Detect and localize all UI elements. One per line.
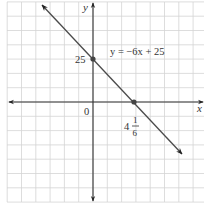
- x-intercept-denominator: 6: [133, 128, 138, 138]
- y-axis-label: y: [82, 1, 88, 13]
- equation-label: y = −6x + 25: [110, 46, 165, 57]
- x-axis-label: x: [196, 102, 202, 114]
- coordinate-plane: y x y = −6x + 25 25 0 4 1 6: [0, 0, 207, 204]
- y-intercept-point: [90, 56, 95, 61]
- function-line: [42, 5, 182, 154]
- x-intercept-whole: 4: [124, 121, 130, 132]
- y-intercept-label: 25: [75, 54, 86, 65]
- x-intercept-numerator: 1: [133, 115, 138, 125]
- origin-label: 0: [84, 106, 89, 117]
- x-intercept-point: [131, 99, 136, 104]
